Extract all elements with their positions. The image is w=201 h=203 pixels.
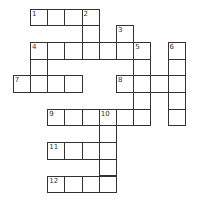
crossword-cell[interactable]: 8 bbox=[116, 75, 134, 93]
crossword-cell[interactable] bbox=[133, 59, 151, 77]
crossword-cell[interactable] bbox=[64, 142, 82, 160]
crossword-cell[interactable] bbox=[99, 42, 117, 60]
crossword-cell[interactable] bbox=[64, 9, 82, 27]
clue-number: 8 bbox=[118, 76, 122, 84]
crossword-cell[interactable] bbox=[47, 9, 65, 27]
clue-number: 7 bbox=[15, 76, 19, 84]
crossword-cell[interactable] bbox=[47, 42, 65, 60]
crossword-cell[interactable] bbox=[116, 109, 134, 127]
crossword-cell[interactable] bbox=[168, 109, 186, 127]
crossword-cell[interactable] bbox=[82, 176, 100, 194]
crossword-cell[interactable] bbox=[47, 75, 65, 93]
crossword-cell[interactable] bbox=[150, 75, 168, 93]
crossword-cell[interactable] bbox=[168, 75, 186, 93]
crossword-cell[interactable]: 1 bbox=[30, 9, 48, 27]
crossword-cell[interactable]: 11 bbox=[47, 142, 65, 160]
clue-number: 11 bbox=[49, 143, 58, 151]
crossword-cell[interactable] bbox=[64, 42, 82, 60]
clue-number: 1 bbox=[32, 10, 36, 18]
crossword-cell[interactable] bbox=[99, 159, 117, 177]
crossword-cell[interactable]: 4 bbox=[30, 42, 48, 60]
crossword-cell[interactable] bbox=[82, 42, 100, 60]
crossword-cell[interactable]: 2 bbox=[82, 9, 100, 27]
crossword-cell[interactable]: 6 bbox=[168, 42, 186, 60]
crossword-cell[interactable] bbox=[82, 142, 100, 160]
crossword-cell[interactable] bbox=[64, 109, 82, 127]
crossword-cell[interactable] bbox=[30, 75, 48, 93]
clue-number: 12 bbox=[49, 177, 58, 185]
crossword-cell[interactable] bbox=[64, 75, 82, 93]
crossword-cell[interactable]: 7 bbox=[13, 75, 31, 93]
crossword-cell[interactable] bbox=[64, 176, 82, 194]
crossword-cell[interactable] bbox=[168, 92, 186, 110]
crossword-cell[interactable] bbox=[99, 142, 117, 160]
clue-number: 2 bbox=[84, 10, 88, 18]
crossword-cell[interactable] bbox=[30, 59, 48, 77]
crossword-cell[interactable] bbox=[82, 25, 100, 43]
clue-number: 5 bbox=[135, 43, 139, 51]
crossword-cell[interactable] bbox=[99, 176, 117, 194]
crossword-cell[interactable]: 9 bbox=[47, 109, 65, 127]
crossword-cell[interactable] bbox=[82, 109, 100, 127]
crossword-cell[interactable] bbox=[99, 125, 117, 143]
crossword-cell[interactable] bbox=[133, 92, 151, 110]
crossword-cell[interactable]: 10 bbox=[99, 109, 117, 127]
crossword-cell[interactable] bbox=[116, 42, 134, 60]
clue-number: 10 bbox=[101, 110, 110, 118]
crossword-grid: 123456789101112 bbox=[0, 0, 201, 203]
clue-number: 4 bbox=[32, 43, 36, 51]
clue-number: 9 bbox=[49, 110, 53, 118]
crossword-cell[interactable] bbox=[133, 75, 151, 93]
crossword-cell[interactable] bbox=[168, 59, 186, 77]
crossword-cell[interactable] bbox=[133, 109, 151, 127]
clue-number: 3 bbox=[118, 26, 122, 34]
crossword-cell[interactable]: 3 bbox=[116, 25, 134, 43]
crossword-cell[interactable]: 12 bbox=[47, 176, 65, 194]
clue-number: 6 bbox=[170, 43, 174, 51]
crossword-cell[interactable]: 5 bbox=[133, 42, 151, 60]
